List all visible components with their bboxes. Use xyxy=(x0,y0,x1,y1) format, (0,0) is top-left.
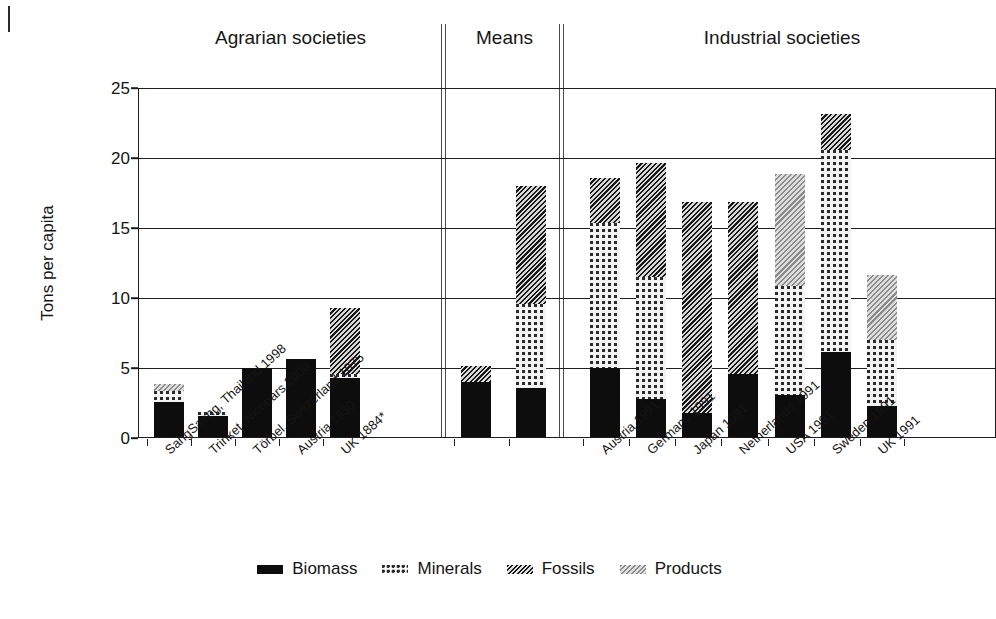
x-tick-mark-10 xyxy=(721,439,722,446)
x-tick-mark-6 xyxy=(509,439,510,446)
y-tick-mark-25 xyxy=(131,87,138,89)
legend-label: Minerals xyxy=(417,559,481,579)
bar-segment-products xyxy=(154,384,184,391)
y-tick-mark-15 xyxy=(131,227,138,229)
bar-segment-biomass xyxy=(590,368,620,437)
x-tick-mark-11 xyxy=(768,439,769,446)
y-axis: Tons per capita 25 20 15 10 5 0 xyxy=(0,88,138,438)
plot-area xyxy=(138,88,996,438)
legend-label: Fossils xyxy=(542,559,595,579)
legend-label: Products xyxy=(655,559,722,579)
bar-7 xyxy=(590,178,620,437)
bar-segment-biomass xyxy=(461,382,491,437)
bar-segment-products xyxy=(867,275,897,341)
minerals-swatch-icon xyxy=(382,565,408,574)
gridline-15 xyxy=(139,228,995,229)
x-tick-mark-13 xyxy=(860,439,861,446)
bar-10 xyxy=(728,202,758,437)
bar-segment-products xyxy=(775,174,805,286)
bar-segment-fossils xyxy=(516,186,546,304)
group-title-means: Means xyxy=(452,27,557,49)
biomass-swatch-icon xyxy=(257,565,283,574)
legend-item-fossils[interactable]: Fossils xyxy=(507,559,595,579)
group-title-agrarian: Agrarian societies xyxy=(148,27,433,49)
y-tick-label-15: 15 xyxy=(111,220,130,237)
x-tick-mark-0 xyxy=(147,439,148,446)
bar-segment-minerals xyxy=(867,340,897,406)
bar-5 xyxy=(461,366,491,437)
x-tick-mark-5 xyxy=(454,439,455,446)
y-tick-label-10: 10 xyxy=(111,290,130,307)
bar-segment-minerals xyxy=(154,391,184,402)
bar-segment-biomass xyxy=(516,388,546,437)
chart-legend: BiomassMineralsFossilsProducts xyxy=(0,552,995,586)
gridline-20 xyxy=(139,158,995,159)
x-tick-mark-end xyxy=(904,439,905,446)
y-tick-mark-0 xyxy=(131,437,138,439)
x-tick-mark-8 xyxy=(629,439,630,446)
bar-segment-minerals xyxy=(590,223,620,369)
bar-8 xyxy=(636,163,666,437)
y-tick-mark-5 xyxy=(131,367,138,369)
bar-segment-fossils xyxy=(728,202,758,374)
bar-segment-minerals xyxy=(775,286,805,395)
legend-label: Biomass xyxy=(292,559,357,579)
bar-segment-fossils xyxy=(821,114,851,150)
y-axis-title: Tons per capita xyxy=(38,153,58,373)
bar-segment-minerals xyxy=(516,304,546,388)
x-tick-mark-3 xyxy=(279,439,280,446)
bar-segment-fossils xyxy=(590,178,620,223)
legend-item-products[interactable]: Products xyxy=(620,559,722,579)
fossils-swatch-icon xyxy=(507,565,533,574)
y-tick-mark-20 xyxy=(131,157,138,159)
group-title-industrial: Industrial societies xyxy=(572,27,992,49)
x-tick-mark-7 xyxy=(583,439,584,446)
y-tick-label-5: 5 xyxy=(121,360,130,377)
x-tick-mark-12 xyxy=(814,439,815,446)
y-tick-label-25: 25 xyxy=(111,80,130,97)
y-tick-label-20: 20 xyxy=(111,150,130,167)
x-tick-mark-1 xyxy=(191,439,192,446)
bar-segment-minerals xyxy=(821,150,851,352)
bar-12 xyxy=(821,114,851,437)
products-swatch-icon xyxy=(620,565,646,574)
y-tick-mark-10 xyxy=(131,297,138,299)
y-tick-label-0: 0 xyxy=(121,430,130,447)
bar-segment-fossils xyxy=(636,163,666,278)
x-tick-mark-4 xyxy=(323,439,324,446)
page-edge-artifact xyxy=(8,6,10,32)
legend-item-biomass[interactable]: Biomass xyxy=(257,559,357,579)
x-tick-mark-9 xyxy=(675,439,676,446)
bar-segment-minerals xyxy=(636,277,666,399)
x-tick-mark-2 xyxy=(235,439,236,446)
bar-segment-fossils xyxy=(461,366,491,383)
legend-item-minerals[interactable]: Minerals xyxy=(382,559,481,579)
bar-segment-fossils xyxy=(682,202,712,413)
bar-6 xyxy=(516,186,546,437)
